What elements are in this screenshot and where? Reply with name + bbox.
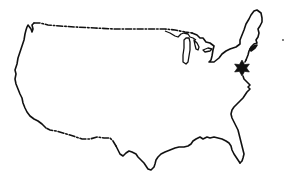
west-coast	[15, 23, 46, 128]
east-coast	[231, 60, 250, 163]
gulf-coast	[116, 137, 240, 170]
great-lakes	[165, 31, 212, 64]
us-outline-map: Outline map of the contiguous United Sta…	[0, 0, 289, 188]
great-lakes-and-northeast-coast	[192, 10, 262, 62]
southern-border	[46, 128, 116, 146]
northern-border	[34, 23, 192, 33]
location-star-marker	[235, 60, 250, 76]
map-speck	[282, 39, 284, 41]
